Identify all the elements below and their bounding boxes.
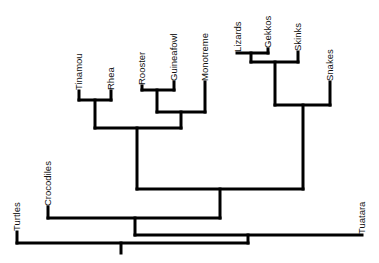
phylogenetic-tree: Turtles Crocodiles Tinamou Rhea Rooster …	[0, 0, 379, 263]
label-lizards: Lizards	[232, 21, 243, 52]
label-monotreme: Monotreme	[199, 33, 210, 81]
label-guineafowl: Guineafowl	[168, 33, 179, 81]
label-crocodiles: Crocodiles	[42, 161, 53, 206]
node-birds-lepidosaurs	[137, 189, 303, 218]
label-rhea: Rhea	[105, 67, 116, 90]
label-snakes: Snakes	[324, 49, 335, 81]
node-archosaur-squamate	[48, 207, 220, 235]
label-tuatara: Tuatara	[356, 201, 367, 234]
label-skinks: Skinks	[292, 23, 303, 51]
label-turtles: Turtles	[11, 202, 22, 231]
clade-squamates	[237, 49, 330, 189]
label-tinamou: Tinamou	[73, 53, 84, 90]
clade-birds	[79, 82, 205, 189]
label-rooster: Rooster	[136, 52, 147, 85]
root-node	[17, 243, 248, 253]
label-gekkos: Gekkos	[262, 16, 273, 48]
